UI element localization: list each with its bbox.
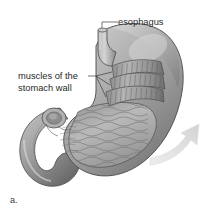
label-muscles-line-2: stomach wall — [18, 83, 72, 93]
stomach-illustration: esophagus muscles of the stomach wall a. — [0, 0, 210, 215]
label-esophagus: esophagus — [118, 17, 164, 27]
figure-caption: a. — [10, 195, 18, 205]
stomach-figure: esophagus muscles of the stomach wall a. — [0, 0, 210, 215]
label-muscles-line-1: muscles of the — [18, 71, 78, 81]
